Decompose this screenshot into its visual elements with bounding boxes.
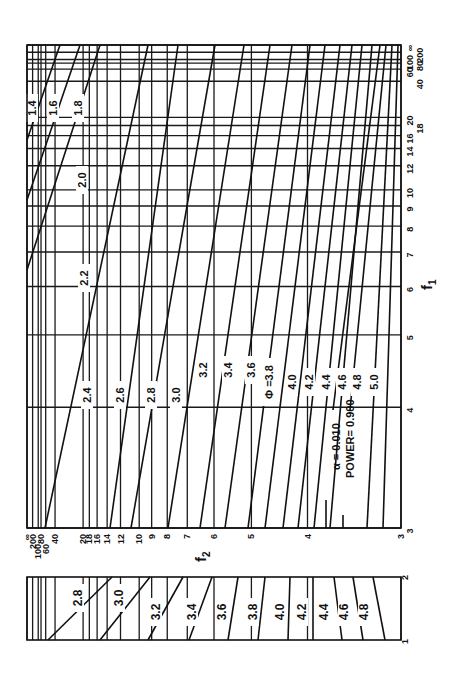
svg-text:3.6: 3.6: [215, 603, 229, 620]
f1-tick: 20: [405, 115, 415, 125]
f2-tick: 5: [246, 534, 256, 539]
svg-text:40: 40: [415, 79, 425, 89]
f2-tick: 80: [36, 534, 46, 544]
f1-tick: 10: [405, 188, 415, 198]
strip-f1-label-2: 2: [400, 575, 410, 580]
phi-label: 2.0: [76, 166, 88, 194]
f2-tick: 9: [147, 534, 157, 539]
svg-text:3.4: 3.4: [222, 361, 234, 377]
svg-text:14: 14: [102, 534, 112, 544]
svg-text:12: 12: [405, 164, 415, 174]
svg-text:5: 5: [405, 335, 415, 340]
svg-text:4.8: 4.8: [357, 603, 371, 620]
svg-text:3.2: 3.2: [197, 362, 209, 377]
phi-label: 3.2: [197, 356, 209, 384]
svg-text:4.0: 4.0: [286, 374, 298, 389]
phi-label: 3.0: [112, 584, 126, 612]
phi-label: 4.6: [336, 368, 348, 396]
f1-tick: 18: [415, 123, 425, 133]
svg-text:4.0: 4.0: [273, 603, 287, 620]
svg-text:1: 1: [400, 639, 410, 644]
f1-tick: 4: [405, 408, 415, 413]
f2-tick: 14: [102, 534, 112, 544]
svg-text:16: 16: [92, 534, 102, 544]
f2-tick: 10: [134, 534, 144, 544]
f1-tick: 9: [405, 206, 415, 211]
f2-tick: 16: [92, 534, 102, 544]
phi-label: 4.6: [337, 598, 351, 626]
svg-text:40: 40: [50, 534, 60, 544]
svg-text:5: 5: [246, 534, 256, 539]
f1-tick: 3: [405, 528, 415, 533]
f1-tick: 12: [405, 164, 415, 174]
svg-text:6: 6: [209, 534, 219, 539]
phi-label: 2.6: [114, 381, 126, 409]
f1-tick: 7: [405, 252, 415, 257]
svg-text:200: 200: [415, 48, 425, 63]
svg-text:Φ =3.8: Φ =3.8: [263, 365, 275, 399]
svg-text:100: 100: [405, 55, 415, 70]
f1-tick: ∞: [405, 44, 415, 51]
svg-text:2.4: 2.4: [81, 386, 93, 402]
phi-label: 4.8: [351, 368, 363, 396]
phi-label: 3.8: [246, 598, 260, 626]
background: [0, 0, 465, 673]
f2-tick: 40: [50, 534, 60, 544]
phi-label: 2.4: [81, 381, 93, 409]
svg-text:4.6: 4.6: [336, 374, 348, 389]
svg-text:4: 4: [405, 408, 415, 413]
f2-tick: 6: [209, 534, 219, 539]
phi-label: 1.6: [47, 94, 59, 122]
svg-text:2: 2: [400, 575, 410, 580]
svg-text:1.6: 1.6: [47, 100, 59, 115]
f1-tick: 5: [405, 335, 415, 340]
strip-f1-label-1: 1: [400, 639, 410, 644]
phi-label: 4.2: [295, 598, 309, 626]
svg-text:20: 20: [405, 115, 415, 125]
svg-text:60: 60: [41, 544, 51, 554]
svg-text:10: 10: [134, 534, 144, 544]
svg-text:4.8: 4.8: [351, 374, 363, 389]
svg-text:16: 16: [405, 134, 415, 144]
phi-label: 3.6: [245, 356, 257, 384]
legend-alpha: α = 0.010: [330, 423, 342, 470]
svg-text:8: 8: [162, 534, 172, 539]
phi-label: 1.8: [72, 94, 84, 122]
svg-text:2.2: 2.2: [78, 270, 90, 285]
phi-label: 4.8: [357, 598, 371, 626]
svg-text:4: 4: [303, 534, 313, 539]
svg-text:7: 7: [405, 252, 415, 257]
svg-text:3.6: 3.6: [245, 362, 257, 377]
svg-text:1.8: 1.8: [72, 100, 84, 115]
f1-tick: 200: [415, 48, 425, 63]
f2-tick: 12: [116, 534, 126, 544]
svg-text:2.0: 2.0: [76, 172, 88, 187]
f2-tick: 4: [303, 534, 313, 539]
phi-label: 3.2: [149, 598, 163, 626]
svg-text:80: 80: [36, 534, 46, 544]
phi-label: 4.2: [303, 368, 315, 396]
svg-text:6: 6: [405, 287, 415, 292]
svg-text:2.8: 2.8: [145, 387, 157, 402]
svg-text:4.2: 4.2: [303, 374, 315, 389]
f1-tick: 16: [405, 134, 415, 144]
legend-power: POWER= 0.900: [344, 399, 356, 478]
phi-label: Φ =3.8: [263, 358, 275, 406]
power-chart: 1.41.61.82.02.22.42.62.83.03.23.43.6Φ =3…: [0, 0, 465, 673]
phi-label: 2.8: [71, 584, 85, 612]
f2-tick: 7: [182, 534, 192, 539]
svg-text:3.4: 3.4: [185, 603, 199, 620]
svg-text:2.6: 2.6: [114, 387, 126, 402]
svg-text:3.2: 3.2: [149, 603, 163, 620]
phi-label: 4.4: [320, 368, 332, 396]
f1-tick: 14: [405, 146, 415, 156]
phi-label: 3.4: [222, 356, 234, 384]
svg-text:4.2: 4.2: [295, 603, 309, 620]
svg-text:8: 8: [405, 227, 415, 232]
phi-label: 5.0: [368, 368, 380, 396]
phi-label: 4.4: [317, 598, 331, 626]
f1-tick: 40: [415, 79, 425, 89]
svg-text:10: 10: [405, 188, 415, 198]
svg-text:4.4: 4.4: [320, 373, 332, 389]
f1-tick: 100: [405, 55, 415, 70]
